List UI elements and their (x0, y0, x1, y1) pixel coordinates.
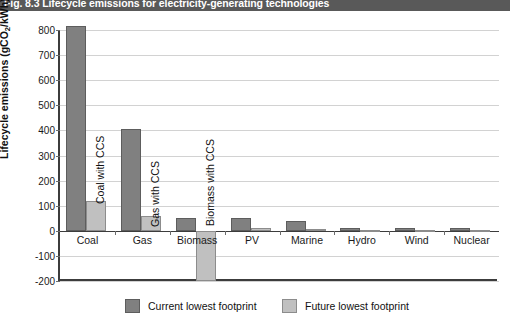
bar-wind-future (415, 230, 435, 232)
y-tick-mark-300 (56, 156, 60, 157)
y-tick-mark--100 (56, 256, 60, 257)
y-tick-mark-100 (56, 206, 60, 207)
legend-swatch-current (125, 299, 140, 313)
bar-pv-future (251, 228, 271, 231)
bar-marine-current (286, 221, 306, 231)
bar-biomass-current (176, 218, 196, 231)
y-tick-mark--200 (56, 281, 60, 282)
bar-hydro-current (340, 228, 360, 231)
y-tick-mark-500 (56, 105, 60, 106)
gridline-700 (60, 55, 499, 56)
legend-item-current: Current lowest footprint (125, 299, 257, 313)
chart-area: Lifecycle emissions (gCO2/kWh) 800700600… (0, 11, 510, 326)
y-tick-mark-400 (56, 130, 60, 131)
y-tick-label-500: 500 (15, 100, 55, 111)
y-tick-mark-600 (56, 80, 60, 81)
y-tick-mark-700 (56, 55, 60, 56)
plot-region: 8007006005004003002001000-100-200CoalGas… (58, 30, 497, 281)
gridline-600 (60, 80, 499, 81)
y-tick-label-600: 600 (15, 75, 55, 86)
y-tick-label-0: 0 (15, 225, 55, 236)
bar-wind-current (395, 228, 415, 231)
y-tick-label-400: 400 (15, 125, 55, 136)
y-axis-title: Lifecycle emissions (gCO2/kWh) (0, 0, 12, 159)
y-axis-title-pre: Lifecycle emissions (gCO (0, 31, 10, 159)
x-axis-label-gas: Gas (115, 234, 170, 246)
y-tick-mark-800 (56, 30, 60, 31)
y-tick-label-300: 300 (15, 150, 55, 161)
x-axis-label-marine: Marine (280, 234, 335, 246)
figure-panel: Fig. 8.3 Lifecycle emissions for electri… (0, 0, 510, 326)
y-tick-mark-0 (56, 231, 60, 232)
y-tick-mark-200 (56, 181, 60, 182)
y-tick-label-700: 700 (15, 50, 55, 61)
gridline--200 (60, 281, 499, 282)
annotation-gas-with-ccs: Gas with CCS (149, 161, 161, 227)
chart-legend: Current lowest footprint Future lowest f… (0, 295, 510, 326)
bar-coal-current (66, 26, 86, 231)
legend-swatch-future (282, 299, 297, 313)
bar-gas-current (121, 129, 141, 231)
bar-pv-current (231, 218, 251, 231)
x-axis-label-coal: Coal (60, 234, 115, 246)
x-axis-label-pv: PV (225, 234, 280, 246)
x-axis-label-wind: Wind (389, 234, 444, 246)
x-axis-label-nuclear: Nuclear (444, 234, 499, 246)
figure-title: Fig. 8.3 Lifecycle emissions for electri… (4, 0, 329, 9)
gridline--100 (60, 256, 499, 257)
y-tick-label-100: 100 (15, 200, 55, 211)
figure-title-bar: Fig. 8.3 Lifecycle emissions for electri… (0, 0, 510, 11)
x-axis-label-hydro: Hydro (334, 234, 389, 246)
y-axis-title-subscript: 2 (3, 27, 12, 31)
legend-label-future: Future lowest footprint (305, 300, 409, 312)
y-tick-label--100: -100 (15, 250, 55, 261)
bar-hydro-future (360, 230, 380, 232)
y-axis-title-post: /kWh) (0, 0, 10, 27)
y-tick-label--200: -200 (15, 276, 55, 287)
annotation-coal-with-ccs: Coal with CCS (94, 136, 106, 204)
legend-label-current: Current lowest footprint (148, 300, 257, 312)
bar-nuclear-current (450, 228, 470, 231)
gridline-500 (60, 105, 499, 106)
legend-item-future: Future lowest footprint (282, 299, 409, 313)
y-tick-label-800: 800 (15, 25, 55, 36)
x-axis-label-biomass: Biomass (170, 234, 225, 246)
bar-nuclear-future (470, 230, 490, 232)
annotation-biomass-with-ccs: Biomass with CCS (204, 139, 216, 226)
y-tick-label-200: 200 (15, 175, 55, 186)
gridline-800 (60, 30, 499, 31)
bar-marine-future (306, 229, 326, 231)
bar-coal-future (86, 201, 106, 231)
